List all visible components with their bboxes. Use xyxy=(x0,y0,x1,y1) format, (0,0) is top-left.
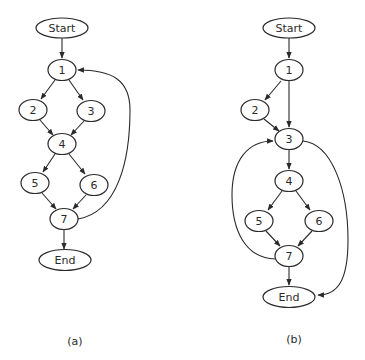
graph-a: Start 1 2 3 4 5 6 7 xyxy=(19,18,130,348)
edge-a-4-6 xyxy=(69,154,85,174)
edge-b-1-2 xyxy=(265,81,281,100)
node-a-4: 4 xyxy=(48,134,76,155)
svg-text:6: 6 xyxy=(316,215,323,228)
svg-text:End: End xyxy=(279,291,300,304)
svg-text:6: 6 xyxy=(91,179,98,192)
edge-a-1-3 xyxy=(69,80,83,100)
edge-a-5-7 xyxy=(42,193,56,209)
svg-text:2: 2 xyxy=(30,104,37,117)
svg-text:Start: Start xyxy=(49,22,77,35)
svg-text:7: 7 xyxy=(61,213,68,226)
node-b-start: Start xyxy=(263,18,315,38)
edge-a-7-1-loop xyxy=(78,70,130,219)
node-a-3: 3 xyxy=(77,101,105,122)
caption-a: (a) xyxy=(67,335,82,348)
edge-a-1-2 xyxy=(41,80,55,99)
edge-a-2-4 xyxy=(40,120,53,135)
node-a-end: End xyxy=(39,250,91,271)
svg-text:2: 2 xyxy=(252,104,259,117)
node-b-5: 5 xyxy=(245,211,273,232)
node-b-2: 2 xyxy=(241,100,269,121)
svg-text:1: 1 xyxy=(59,64,66,77)
node-a-6: 6 xyxy=(80,175,108,196)
edge-a-3-4 xyxy=(71,121,84,135)
svg-text:3: 3 xyxy=(88,105,95,118)
svg-text:4: 4 xyxy=(59,138,66,151)
svg-text:1: 1 xyxy=(286,64,293,77)
svg-text:5: 5 xyxy=(256,215,263,228)
graph-b: Start 1 2 3 4 5 6 7 xyxy=(232,18,348,346)
edge-b-4-5 xyxy=(268,191,282,210)
svg-text:Start: Start xyxy=(276,22,304,35)
svg-text:5: 5 xyxy=(32,177,39,190)
node-b-3: 3 xyxy=(275,129,303,150)
node-a-1: 1 xyxy=(48,60,76,81)
node-b-1: 1 xyxy=(275,60,303,81)
edge-b-7-3-loop xyxy=(232,141,275,259)
svg-text:3: 3 xyxy=(286,133,293,146)
node-a-start: Start xyxy=(36,18,88,38)
edge-b-6-7 xyxy=(298,231,312,246)
node-b-4: 4 xyxy=(275,171,303,192)
edge-b-2-3 xyxy=(264,119,279,131)
node-a-5: 5 xyxy=(21,173,49,194)
svg-text:4: 4 xyxy=(286,175,293,188)
node-a-2: 2 xyxy=(19,100,47,121)
edge-a-4-5 xyxy=(43,154,55,172)
node-b-end: End xyxy=(263,287,315,308)
node-b-6: 6 xyxy=(305,211,333,232)
svg-text:7: 7 xyxy=(286,250,293,263)
caption-b: (b) xyxy=(286,333,302,346)
edge-b-5-7 xyxy=(266,231,280,246)
edge-a-6-7 xyxy=(73,195,86,209)
node-a-7: 7 xyxy=(50,209,78,230)
control-flow-diagrams: Start 1 2 3 4 5 6 7 xyxy=(0,0,365,360)
svg-text:End: End xyxy=(55,254,76,267)
node-b-7: 7 xyxy=(275,246,303,267)
edge-b-4-6 xyxy=(296,191,310,210)
